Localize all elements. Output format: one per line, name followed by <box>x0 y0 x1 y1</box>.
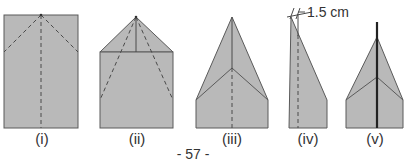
step-4-shape <box>289 17 327 128</box>
step-label-4: (iv) <box>298 130 319 147</box>
step-label-1: (i) <box>35 130 48 147</box>
step-label-5: (v) <box>366 130 384 147</box>
step-label-3: (iii) <box>222 130 242 147</box>
paper-plane-folding-diagram <box>0 0 409 164</box>
measurement-label: 1.5 cm <box>307 4 349 20</box>
step-label-2: (ii) <box>129 130 146 147</box>
step-5-shape <box>346 37 403 128</box>
step-2-sheet <box>100 52 173 128</box>
page-number: - 57 - <box>177 146 210 162</box>
